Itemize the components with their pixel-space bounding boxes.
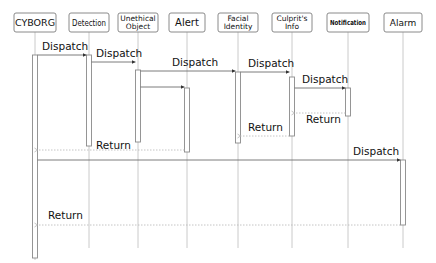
filled-arrowhead-icon <box>181 85 185 89</box>
message-label: Dispatch <box>172 56 218 68</box>
sequence-diagram: DispatchDispatchDispatchDispatchDispatch… <box>0 0 436 263</box>
message-label: Return <box>306 113 341 125</box>
participant-culprits-info[interactable]: Culprit'sInfo <box>272 13 312 32</box>
dispatch-message-cyborg-to-alarm: Dispatch <box>38 145 401 162</box>
activation-bar-facial-identity <box>236 72 241 143</box>
participant-notification[interactable]: Notification <box>327 13 369 32</box>
return-message-culprits-info-to-facial-identity: Return <box>238 121 290 138</box>
message-label: Return <box>96 139 131 151</box>
participant-label: Info <box>285 22 300 31</box>
participant-cyborg[interactable]: CYBORG <box>14 13 56 32</box>
dispatch-message-unethical-object-to-facial-identity: Dispatch <box>141 56 236 73</box>
activation-bar-notification <box>346 88 351 116</box>
participant-label: Detection <box>72 18 106 28</box>
participant-headers: CYBORGDetectionUnethicalObjectAlertFacia… <box>14 13 422 32</box>
filled-arrowhead-icon <box>397 158 401 162</box>
message-label: Dispatch <box>42 40 88 52</box>
participant-label: Alert <box>175 17 199 28</box>
message-label: Dispatch <box>96 47 142 59</box>
message-label: Dispatch <box>353 145 399 157</box>
filled-arrowhead-icon <box>286 70 290 74</box>
activation-bar-alarm <box>401 160 406 225</box>
message-label: Return <box>48 209 83 221</box>
activation-bar-detection <box>87 55 92 146</box>
filled-arrowhead-icon <box>342 86 346 90</box>
filled-arrowhead-icon <box>132 60 136 64</box>
participant-label: CYBORG <box>15 17 55 28</box>
activation-bar-culprits-info <box>290 77 295 136</box>
participant-alert[interactable]: Alert <box>169 13 205 32</box>
participant-facial-identity[interactable]: FacialIdentity <box>218 13 258 32</box>
filled-arrowhead-icon <box>83 53 87 57</box>
participant-label: Identity <box>224 22 253 31</box>
return-message-notification-to-culprits-info: Return <box>292 111 346 125</box>
return-message-alert-to-cyborg: Return <box>35 139 185 152</box>
message-label: Dispatch <box>248 57 294 69</box>
dispatch-message-detection-to-unethical-object: Dispatch <box>92 47 143 64</box>
participant-label: Object <box>126 22 150 31</box>
activation-bar-cyborg <box>33 55 38 258</box>
participant-alarm[interactable]: Alarm <box>384 13 422 32</box>
activation-bar-alert <box>185 88 190 152</box>
activations <box>33 55 406 258</box>
participant-label: Alarm <box>390 18 416 28</box>
message-label: Return <box>248 121 283 133</box>
filled-arrowhead-icon <box>232 69 236 73</box>
message-label: Dispatch <box>302 73 348 85</box>
dispatch-message-facial-identity-to-culprits-info: Dispatch <box>241 57 295 74</box>
participant-detection[interactable]: Detection <box>69 13 109 32</box>
dispatch-message-cyborg-to-detection: Dispatch <box>38 40 89 57</box>
participant-unethical-object[interactable]: UnethicalObject <box>118 13 158 32</box>
activation-bar-unethical-object <box>136 70 141 142</box>
dispatch-message-unethical-object-to-alert <box>141 85 185 89</box>
participant-label: Notification <box>330 19 366 27</box>
dispatch-message-culprits-info-to-notification: Dispatch <box>295 73 349 90</box>
